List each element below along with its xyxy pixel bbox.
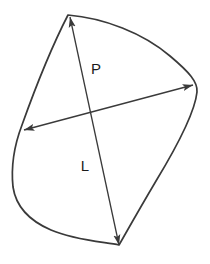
dimension-p-label: P [91,60,101,77]
canvas-background [0,0,210,264]
dimension-l-label: L [81,157,89,174]
figure-container: P L [0,0,210,264]
figure-canvas: P L [0,0,210,264]
